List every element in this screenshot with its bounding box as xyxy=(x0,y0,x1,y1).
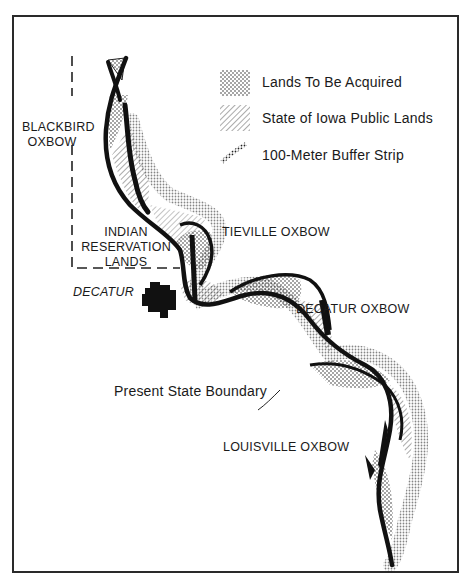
label-louisville-oxbow: LOUISVILLE OXBOW xyxy=(223,440,349,455)
label-decatur-oxbow: DECATUR OXBOW xyxy=(296,302,409,317)
label-indian-reservation: INDIAN RESERVATION LANDS xyxy=(76,225,176,270)
label-blackbird-oxbow: BLACKBIRD OXBOW xyxy=(22,120,82,150)
label-present-state-boundary: Present State Boundary xyxy=(114,384,267,399)
label-tieville-oxbow: TIEVILLE OXBOW xyxy=(222,225,330,240)
swatch-dots-icon xyxy=(220,70,250,96)
legend-label-state-lands: State of Iowa Public Lands xyxy=(262,111,433,126)
swatch-hatch-icon xyxy=(220,105,250,131)
decatur-town-icon xyxy=(142,282,176,318)
swatch-buffer-icon xyxy=(222,144,246,162)
legend-label-buffer-strip: 100-Meter Buffer Strip xyxy=(262,148,404,163)
legend-label-lands-acquired: Lands To Be Acquired xyxy=(262,75,402,90)
label-decatur: DECATUR xyxy=(73,285,134,300)
legend-swatches xyxy=(220,70,250,162)
